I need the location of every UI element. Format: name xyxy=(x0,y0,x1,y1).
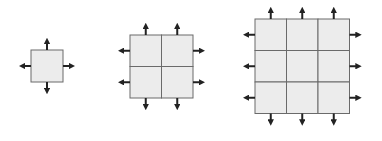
diagram-canvas xyxy=(0,0,382,141)
grid-1x1 xyxy=(22,41,72,91)
grid-cell xyxy=(318,82,350,114)
grid-cell xyxy=(162,67,194,99)
grid-cell xyxy=(255,19,287,51)
grid-2x2 xyxy=(121,26,202,107)
grid-cell xyxy=(287,19,319,51)
grid-cell xyxy=(318,51,350,83)
grid-cell xyxy=(318,19,350,51)
grid-cell xyxy=(287,82,319,114)
grid-3x3 xyxy=(246,10,359,123)
grid-cell xyxy=(255,82,287,114)
grid-cell xyxy=(130,35,162,67)
grid-cell xyxy=(130,67,162,99)
grid-cell xyxy=(287,51,319,83)
grid-cell xyxy=(162,35,194,67)
grid-cell xyxy=(31,50,63,82)
grid-cell xyxy=(255,51,287,83)
